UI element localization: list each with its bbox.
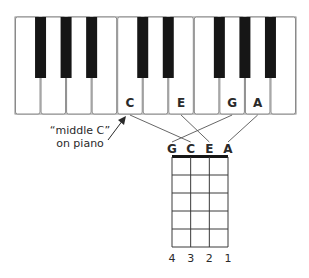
black-key bbox=[239, 17, 250, 78]
string-number: 1 bbox=[225, 252, 232, 265]
piano-keyboard: CEGA bbox=[15, 17, 296, 114]
ukulele-fretboard: GCEA 4321 bbox=[167, 142, 233, 265]
string-number: 3 bbox=[187, 252, 194, 265]
black-key bbox=[61, 17, 72, 78]
black-key bbox=[35, 17, 46, 78]
annotation-line1: “middle C” bbox=[50, 124, 110, 137]
arrow-line bbox=[108, 120, 123, 140]
string-number: 2 bbox=[206, 252, 213, 265]
string-label-c: C bbox=[186, 142, 195, 156]
piano-to-ukulele-diagram: CEGA “middle C” on piano GCEA 4321 bbox=[0, 0, 309, 278]
string-label-g: G bbox=[167, 142, 177, 156]
string-label-a: A bbox=[223, 142, 233, 156]
key-label-g: G bbox=[227, 96, 237, 110]
key-label-a: A bbox=[253, 96, 263, 110]
black-key bbox=[137, 17, 148, 78]
mapping-line-g bbox=[172, 115, 232, 142]
black-key bbox=[163, 17, 174, 78]
key-label-e: E bbox=[177, 96, 185, 110]
string-number: 4 bbox=[169, 252, 176, 265]
mapping-line-e bbox=[181, 115, 209, 142]
middle-c-annotation: “middle C” on piano bbox=[50, 116, 126, 150]
arrow-head-icon bbox=[118, 116, 126, 125]
key-label-c: C bbox=[126, 96, 135, 110]
mapping-lines bbox=[130, 115, 258, 142]
nut bbox=[172, 155, 228, 158]
black-key bbox=[214, 17, 225, 78]
black-key bbox=[86, 17, 97, 78]
annotation-line2: on piano bbox=[56, 137, 104, 150]
mapping-line-a bbox=[228, 115, 258, 142]
string-label-e: E bbox=[205, 142, 213, 156]
black-key bbox=[265, 17, 276, 78]
